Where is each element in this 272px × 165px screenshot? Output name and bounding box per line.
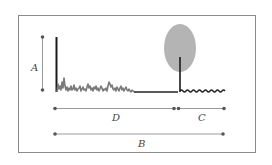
measure-a: A	[30, 35, 44, 92]
measure-c-end-dot	[222, 107, 226, 111]
label-c: C	[198, 112, 206, 123]
measure-c: C	[177, 107, 226, 123]
measure-b-end-dot	[221, 132, 225, 136]
measure-c-start-dot	[177, 107, 181, 111]
label-b: B	[137, 138, 145, 149]
label-d: D	[111, 112, 120, 123]
measure-b-start-dot	[53, 132, 57, 136]
frame-box	[19, 16, 256, 153]
measure-d-end-dot	[172, 107, 176, 111]
noisy-signal	[57, 78, 134, 92]
wavy-signal	[180, 90, 225, 92]
measure-a-bottom-dot	[41, 88, 45, 92]
signal-diagram: A D C B	[0, 0, 272, 165]
measure-d: D	[53, 107, 176, 123]
label-a: A	[30, 62, 38, 73]
measure-b: B	[53, 132, 225, 149]
measure-d-start-dot	[53, 107, 57, 111]
measure-a-top-dot	[41, 35, 45, 39]
